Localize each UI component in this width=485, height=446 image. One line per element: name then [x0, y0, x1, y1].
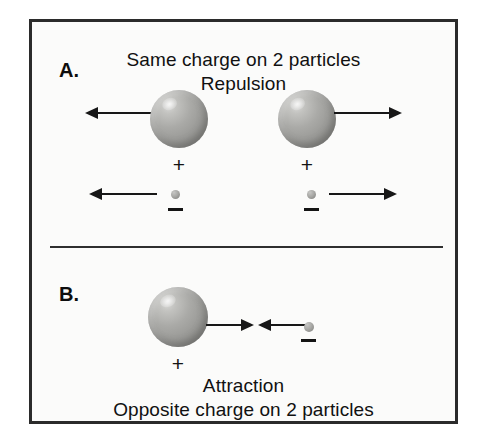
large-sphere-left-a — [150, 90, 208, 148]
arrowhead-right-icon — [389, 107, 402, 119]
panel-a-heading-line1: Same charge on 2 particles — [32, 48, 455, 72]
arrowhead-right-icon — [384, 188, 397, 200]
small-particle-b — [304, 322, 314, 332]
charge-sign-plus-left-a: + — [165, 154, 193, 175]
force-arrow-right-sphere-a — [334, 107, 402, 119]
arrow-shaft — [100, 193, 157, 195]
charge-sign-minus-left-a — [168, 208, 183, 211]
panel-b-heading-line1: Attraction — [32, 374, 455, 398]
arrow-shaft — [96, 112, 153, 114]
force-arrow-right-sphere-b — [206, 319, 254, 331]
panel-a-label: A. — [59, 59, 79, 82]
arrow-shaft — [334, 112, 391, 114]
force-arrow-left-sphere-a — [85, 107, 153, 119]
charge-sign-plus-b: + — [164, 353, 192, 374]
force-arrow-right-particle-a — [329, 188, 397, 200]
arrow-shaft — [269, 324, 306, 326]
force-arrow-left-particle-a — [89, 188, 157, 200]
charge-sign-minus-b — [301, 339, 316, 342]
panel-b-heading-line2: Opposite charge on 2 particles — [32, 398, 455, 422]
panel-a-heading-line2: Repulsion — [32, 72, 455, 96]
arrowhead-right-icon — [241, 319, 254, 331]
arrow-shaft — [329, 193, 386, 195]
panel-divider — [50, 246, 443, 248]
electrostatic-force-figure: Same charge on 2 particles Repulsion A. … — [0, 0, 485, 446]
force-arrow-left-particle-b — [258, 319, 306, 331]
large-sphere-b — [148, 287, 208, 347]
small-particle-right-a — [307, 190, 316, 199]
figure-frame: Same charge on 2 particles Repulsion A. … — [29, 19, 458, 424]
panel-b-label: B. — [59, 283, 79, 306]
large-sphere-right-a — [278, 90, 336, 148]
small-particle-left-a — [171, 190, 180, 199]
charge-sign-minus-right-a — [304, 208, 319, 211]
arrow-shaft — [206, 324, 243, 326]
charge-sign-plus-right-a: + — [293, 154, 321, 175]
